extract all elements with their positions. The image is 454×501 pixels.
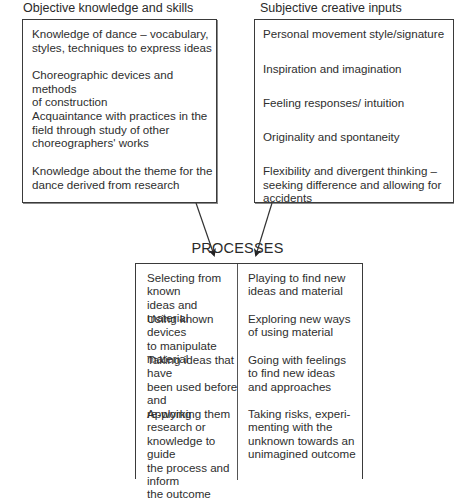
subjective-item: Feeling responses/ intuition: [263, 96, 453, 110]
objective-knowledge-box: Knowledge of dance – vocabulary, styles,…: [22, 19, 217, 203]
process-cell-new: Exploring new ways of using material: [248, 312, 363, 339]
subjective-inputs-box: Personal movement style/signature Inspir…: [254, 19, 454, 203]
subjective-item: Flexibility and divergent thinking – see…: [263, 164, 453, 205]
subjective-item: Inspiration and imagination: [263, 62, 453, 76]
objective-item: Knowledge of dance – vocabulary, styles,…: [32, 27, 217, 54]
objective-item: Acquaintance with practices in the field…: [32, 109, 217, 150]
subjective-heading: Subjective creative inputs: [260, 1, 402, 15]
process-cell-new: Taking risks, experi- menting with the u…: [248, 407, 363, 461]
objective-heading: Objective knowledge and skills: [23, 1, 193, 15]
processes-table: Selecting from known ideas and material …: [135, 263, 363, 479]
subjective-item: Personal movement style/signature: [263, 27, 453, 41]
process-cell-new: Going with feelings to find new ideas an…: [248, 353, 363, 393]
subjective-item: Originality and spontaneity: [263, 130, 453, 144]
processes-title: PROCESSES: [0, 240, 447, 256]
process-cell-known: Applying research or knowledge to guide …: [147, 407, 239, 501]
process-cell-new: Playing to find new ideas and material: [248, 271, 363, 298]
objective-item: Knowledge about the theme for the dance …: [32, 164, 217, 191]
objective-item: Choreographic devices and methods of con…: [32, 68, 217, 109]
